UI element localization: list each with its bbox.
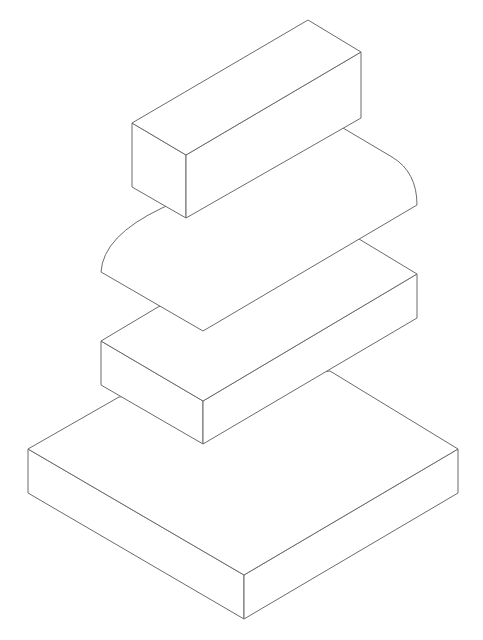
isometric-stack-diagram: [0, 0, 483, 640]
